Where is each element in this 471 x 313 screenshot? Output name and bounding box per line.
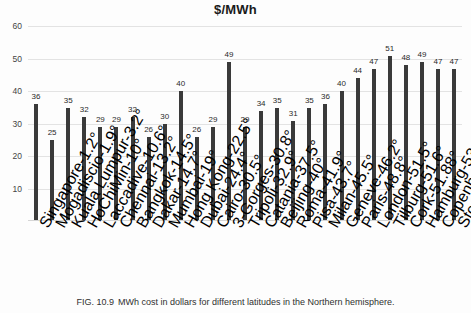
x-axis-label-slot: Laccadive-10.6° — [92, 221, 108, 285]
bar-value-label: 34 — [257, 99, 266, 108]
x-axis-label-slot: Bangkok-14.5° — [124, 221, 140, 285]
bar-value-label: 36 — [32, 92, 41, 101]
bar-value-label: 31 — [289, 109, 298, 118]
x-axis-category-labels: Singapore-1.2°Mogadiscio-1.9°Kuala Lumpu… — [28, 221, 462, 285]
bar-value-label: 51 — [385, 44, 394, 53]
x-axis-label-slot: Copenhagen-55.7° — [430, 221, 446, 285]
x-axis-label-slot: Mumbai-19° — [157, 221, 173, 285]
bar-value-label: 36 — [321, 92, 330, 101]
x-axis-label-slot: Chennai-13.2° — [108, 221, 124, 285]
x-axis-label-slot: Pisa-43.7° — [301, 221, 317, 285]
bar-value-label: 25 — [48, 128, 57, 137]
bar-value-label: 49 — [225, 50, 234, 59]
bar-value-label: 44 — [353, 66, 362, 75]
bar-value-label: 47 — [434, 57, 443, 66]
x-axis-label-slot: Beijing-40° — [269, 221, 285, 285]
bar-rect[interactable] — [34, 104, 38, 221]
y-axis-tick: 30 — [13, 119, 22, 129]
x-axis-label-slot: Tilburg-51.6° — [382, 221, 398, 285]
bar-value-label: 29 — [112, 115, 121, 124]
bar-value-label: 47 — [369, 57, 378, 66]
x-axis-label-slot: Cairo-30.5° — [205, 221, 221, 285]
x-axis-label-slot: Stockholm-59° — [446, 221, 462, 285]
bar-value-label: 49 — [417, 50, 426, 59]
x-axis-label-slot: Catania-37.5° — [253, 221, 269, 285]
bar-value-label: 29 — [208, 115, 217, 124]
x-axis-label-slot: Mogadiscio-1.9° — [44, 221, 60, 285]
bar-item[interactable]: 36 — [28, 20, 44, 221]
y-axis-tick: 50 — [13, 54, 22, 64]
x-axis-label-slot: Kuala Lumpur-3.2° — [60, 221, 76, 285]
y-axis-tick: 20 — [13, 151, 22, 161]
x-axis-label-slot: Dakar-14.7° — [141, 221, 157, 285]
x-axis-label-slot: Cork-51.88° — [398, 221, 414, 285]
figure-container: $/MWh 102030405060 362535322929322630402… — [0, 0, 471, 313]
bar-value-label: 48 — [401, 53, 410, 62]
bar-value-label: 26 — [192, 125, 201, 134]
x-axis-label-slot: Hong Kong-22.5° — [173, 221, 189, 285]
bar-value-label: 35 — [305, 96, 314, 105]
chart-title: $/MWh — [0, 2, 471, 17]
x-axis-label-slot: HoChiMin-10° — [76, 221, 92, 285]
x-axis-label-slot: Paris-48.8° — [350, 221, 366, 285]
y-axis-tick: 10 — [13, 184, 22, 194]
x-axis-label-slot: London-51.5° — [366, 221, 382, 285]
caption-text: MWh cost in dollars for different latitu… — [118, 297, 394, 307]
bar-value-label: 32 — [80, 105, 89, 114]
bar-value-label: 35 — [64, 96, 73, 105]
x-axis-label-slot: Tripoli-32.9° — [237, 221, 253, 285]
bar-value-label: 30 — [160, 112, 169, 121]
x-axis-label-slot: 3-Gorges-30.8° — [221, 221, 237, 285]
x-axis-label-slot: Geneve-46.2° — [333, 221, 349, 285]
x-axis-tick-label: Stockholm-59° — [454, 222, 470, 231]
figure-number: FIG. 10.9 — [77, 297, 115, 307]
y-axis-tick: 60 — [13, 21, 22, 31]
y-axis-tick: 40 — [13, 86, 22, 96]
bar-value-label: 47 — [450, 57, 459, 66]
x-axis-label-slot: Hamburg-53.5° — [414, 221, 430, 285]
x-axis-label-slot: Milan-45.5° — [317, 221, 333, 285]
y-axis-tick-labels: 102030405060 — [0, 20, 26, 221]
x-axis-label-slot: Dubai-24.4° — [189, 221, 205, 285]
bar-value-label: 40 — [176, 79, 185, 88]
bar-value-label: 29 — [96, 115, 105, 124]
x-axis-label-slot: Singapore-1.2° — [28, 221, 44, 285]
bar-value-label: 40 — [337, 79, 346, 88]
bar-value-label: 35 — [273, 96, 282, 105]
x-axis-label-slot: Roma-41.9° — [285, 221, 301, 285]
figure-caption: FIG. 10.9MWh cost in dollars for differe… — [0, 297, 471, 307]
